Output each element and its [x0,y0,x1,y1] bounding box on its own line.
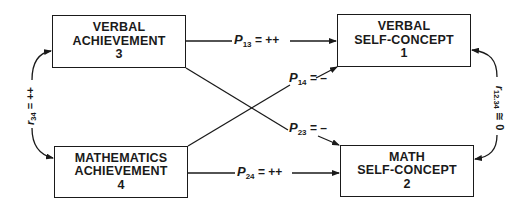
node-number: 3 [115,48,122,62]
path-value: = – [310,121,327,135]
correlation-symbol: r [24,121,36,125]
node-line2: SELF-CONCEPT [354,34,454,48]
path-symbol: P [237,164,246,179]
node-line2: SELF-CONCEPT [357,164,457,178]
correlation-label-r34: r34 = ++ [24,78,40,134]
path-subscript: 14 [298,78,307,87]
node-line1: MATHEMATICS [75,152,168,166]
node-number: 4 [117,179,124,193]
correlation-label-r1234: r12.34 ≅ 0 [490,73,506,143]
path-symbol: P [289,70,298,85]
node-mathematics-achievement: MATHEMATICS ACHIEVEMENT 4 [54,146,188,198]
path-value: = ++ [258,165,282,179]
correlation-value: ≅ 0 [494,112,506,130]
correlation-subscript: 34 [29,112,38,120]
path-label-p24: P24 = ++ [237,165,282,184]
node-math-self-concept: MATH SELF-CONCEPT 2 [340,145,474,197]
node-number: 2 [403,178,410,192]
node-verbal-self-concept: VERBAL SELF-CONCEPT 1 [337,14,471,67]
path-value: = – [310,71,327,85]
path-subscript: 13 [243,40,252,49]
path-label-p14: P14 = – [289,71,327,90]
path-symbol: P [289,120,298,135]
node-line2: ACHIEVEMENT [74,165,167,179]
node-line1: VERBAL [93,21,146,35]
path-subscript: 23 [298,128,307,137]
node-line2: ACHIEVEMENT [72,35,165,49]
path-label-p23: P23 = – [289,121,327,140]
node-line1: MATH [389,151,425,165]
path-subscript: 24 [246,172,255,181]
node-line1: VERBAL [378,20,431,34]
path-value: = ++ [255,33,279,47]
correlation-subscript: 12.34 [492,90,501,109]
path-label-p13: P13 = ++ [234,33,279,52]
node-number: 1 [400,47,407,61]
path-symbol: P [234,32,243,47]
node-verbal-achievement: VERBAL ACHIEVEMENT 3 [52,15,186,68]
correlation-value: = ++ [24,87,36,109]
